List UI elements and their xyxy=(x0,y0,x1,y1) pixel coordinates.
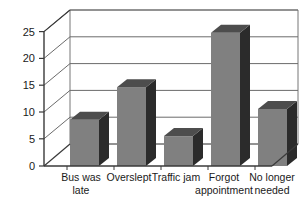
y-axis-tick-25: 25 xyxy=(23,26,35,38)
bar-forgot-appointment xyxy=(211,25,250,166)
y-axis-tick-0: 0 xyxy=(29,160,35,172)
y-axis-tick-10: 10 xyxy=(23,106,35,118)
x-axis-label-overslept-line1: Overslept xyxy=(107,171,152,183)
bar-no-longer-needed xyxy=(258,101,297,166)
bar-traffic-jam xyxy=(164,128,203,166)
y-axis-tick-20: 20 xyxy=(23,52,35,64)
bar-bus-was-late xyxy=(70,112,109,166)
x-axis-label-traffic-jam-line1: Traffic jam xyxy=(152,171,201,183)
x-axis-label-bus-was-late-line2: late xyxy=(73,184,90,196)
x-axis-label-forgot-appointment-line2: appointment xyxy=(195,184,253,196)
chart-svg: 0 5 10 15 20 25 Bus was late Overslept T… xyxy=(0,0,301,199)
bar-chart: 0 5 10 15 20 25 Bus was late Overslept T… xyxy=(0,0,301,199)
x-axis-label-bus-was-late-line1: Bus was xyxy=(61,171,101,183)
x-axis-label-forgot-appointment-line1: Forgot xyxy=(209,171,239,183)
y-axis-tick-15: 15 xyxy=(23,79,35,91)
x-axis-label-no-longer-needed-line2: needed xyxy=(254,184,289,196)
y-tick-marks xyxy=(39,32,44,166)
x-axis-label-no-longer-needed-line1: No longer xyxy=(249,171,295,183)
y-axis-tick-5: 5 xyxy=(29,133,35,145)
bar-overslept xyxy=(117,79,156,166)
